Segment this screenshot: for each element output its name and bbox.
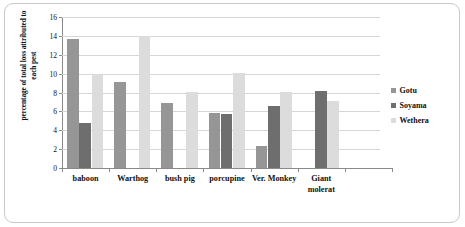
legend-label: Soyama <box>400 101 427 110</box>
legend-item-wethera[interactable]: Wethera <box>391 113 457 128</box>
gridline <box>62 36 380 37</box>
y-tick-label: 14 <box>49 31 57 40</box>
y-axis-title-line2: each pest <box>29 52 38 80</box>
x-tick-mark <box>62 168 63 172</box>
y-tick-mark <box>59 93 62 94</box>
y-tick-label: 6 <box>53 107 57 116</box>
gridline <box>62 93 380 94</box>
legend-label: Gotu <box>400 86 417 95</box>
bar-soyama-ver-monkey <box>268 106 280 168</box>
x-axis-label-baboon: baboon <box>62 173 109 184</box>
bar-gotu-warthog <box>114 82 126 168</box>
bar-wethera-baboon <box>92 74 104 168</box>
legend-item-gotu[interactable]: Gotu <box>391 83 457 98</box>
bar-gotu-bush-pig <box>161 103 173 168</box>
plot-area: 0246810121416 <box>62 17 380 168</box>
y-tick-label: 0 <box>53 164 57 173</box>
bar-soyama-baboon <box>79 123 91 168</box>
y-tick-label: 16 <box>49 13 57 22</box>
y-tick-label: 10 <box>49 69 57 78</box>
bar-gotu-porcupine <box>209 113 221 168</box>
bar-gotu-ver-monkey <box>256 146 268 168</box>
x-axis-labels: baboonWarthogbush pigporcupineVer. Monke… <box>62 173 392 217</box>
y-tick-mark <box>59 74 62 75</box>
x-axis-label-ver-monkey: Ver. Monkey <box>251 173 298 184</box>
bar-wethera-giant-molerat <box>327 101 339 168</box>
y-tick-label: 12 <box>49 50 57 59</box>
x-axis-label-porcupine: porcupine <box>203 173 250 184</box>
bar-soyama-giant-molerat <box>315 91 327 168</box>
x-tick-mark <box>345 168 346 172</box>
y-tick-mark <box>59 149 62 150</box>
gridline <box>62 74 380 75</box>
y-axis-title-line1: percentage of total loss attributed to <box>19 11 28 121</box>
legend-swatch-icon <box>391 118 396 123</box>
gridline <box>62 17 380 18</box>
y-axis-title: percentage of total loss attributed to e… <box>19 0 38 141</box>
bar-wethera-bush-pig <box>186 92 198 168</box>
bar-gotu-baboon <box>67 39 79 168</box>
bar-wethera-porcupine <box>233 73 245 168</box>
y-tick-mark <box>59 55 62 56</box>
y-tick-mark <box>59 111 62 112</box>
y-tick-label: 8 <box>53 88 57 97</box>
x-tick-mark <box>203 168 204 172</box>
x-tick-mark <box>392 168 393 172</box>
y-tick-mark <box>59 17 62 18</box>
x-axis-label-bush-pig: bush pig <box>156 173 203 184</box>
y-tick-mark <box>59 36 62 37</box>
y-tick-mark <box>59 130 62 131</box>
gridline <box>62 55 380 56</box>
y-tick-label: 2 <box>53 145 57 154</box>
x-axis-label-warthog: Warthog <box>109 173 156 184</box>
bar-wethera-ver-monkey <box>280 92 292 168</box>
x-tick-mark <box>156 168 157 172</box>
x-tick-mark <box>251 168 252 172</box>
x-axis-label-giant-molerat: Giant molerat <box>298 173 345 195</box>
x-tick-mark <box>109 168 110 172</box>
y-tick-label: 4 <box>53 126 57 135</box>
legend-item-soyama[interactable]: Soyama <box>391 98 457 113</box>
legend-swatch-icon <box>391 88 396 93</box>
bar-soyama-porcupine <box>221 114 233 168</box>
legend-label: Wethera <box>400 116 429 125</box>
bar-wethera-warthog <box>139 36 151 168</box>
legend-swatch-icon <box>391 103 396 108</box>
chart-figure: percentage of total loss attributed to e… <box>0 0 465 227</box>
chart-legend: GotuSoyamaWethera <box>391 83 457 128</box>
x-tick-mark <box>298 168 299 172</box>
